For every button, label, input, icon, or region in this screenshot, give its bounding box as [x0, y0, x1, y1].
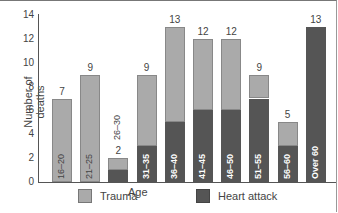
- bar-26-30: 226–30: [108, 0, 128, 213]
- bar-total-label: 9: [244, 62, 274, 73]
- legend-item-trauma: Trauma: [78, 189, 138, 203]
- category-label: 51–55: [253, 154, 263, 179]
- category-label: 21–25: [84, 154, 94, 179]
- y-tick-label: 4: [20, 128, 34, 139]
- bar-total-label: 5: [273, 109, 303, 120]
- category-label: 16–20: [56, 154, 66, 179]
- y-tick-label: 10: [20, 57, 34, 68]
- y-tick-label: 6: [20, 104, 34, 115]
- bar-segment-trauma: [137, 75, 157, 147]
- category-label: Over 60: [310, 146, 320, 179]
- bar-21-25: 921–25: [80, 0, 100, 213]
- bar-segment-trauma: [108, 158, 128, 170]
- y-axis-line: [38, 14, 39, 183]
- bar-total-label: 7: [47, 86, 77, 97]
- y-tick-label: 8: [20, 81, 34, 92]
- bar-total-label: 12: [188, 26, 218, 37]
- bar-51-55: 951–55: [249, 0, 269, 213]
- y-tick-label: 14: [20, 9, 34, 20]
- category-label: 31–35: [141, 154, 151, 179]
- stacked-bar-chart: Number of deaths 02468101214 716–20921–2…: [0, 0, 338, 213]
- bar-total-label: 9: [75, 62, 105, 73]
- bar-total-label: 13: [301, 14, 331, 25]
- bar-segment-trauma: [221, 39, 241, 111]
- legend-label-trauma: Trauma: [100, 190, 138, 202]
- category-label: 56–60: [282, 154, 292, 179]
- bar-segment-trauma: [249, 75, 269, 99]
- bar-total-label: 9: [132, 62, 162, 73]
- bar-36-40: 1336–40: [165, 0, 185, 213]
- y-tick-label: 2: [20, 152, 34, 163]
- y-tick-label: 0: [20, 176, 34, 187]
- bar-31-35: 931–35: [137, 0, 157, 213]
- legend-label-heart-attack: Heart attack: [218, 190, 277, 202]
- category-label: 36–40: [169, 154, 179, 179]
- bar-over-60: 13Over 60: [306, 0, 326, 213]
- bar-segment-trauma: [193, 39, 213, 111]
- bar-segment-heart-attack: [108, 170, 128, 182]
- bar-segment-trauma: [278, 122, 298, 146]
- legend-swatch-heart-attack: [196, 189, 210, 203]
- bar-41-45: 1241–45: [193, 0, 213, 213]
- category-label: 46–50: [225, 154, 235, 179]
- bar-total-label: 2: [103, 145, 133, 156]
- category-label: 41–45: [197, 154, 207, 179]
- bar-56-60: 556–60: [278, 0, 298, 213]
- bar-segment-trauma: [165, 27, 185, 122]
- legend-swatch-trauma: [78, 189, 92, 203]
- legend-item-heart-attack: Heart attack: [196, 189, 277, 203]
- y-tick-label: 12: [20, 33, 34, 44]
- bar-total-label: 12: [216, 26, 246, 37]
- category-label: 26–30: [112, 115, 122, 140]
- bar-16-20: 716–20: [52, 0, 72, 213]
- bar-46-50: 1246–50: [221, 0, 241, 213]
- bar-total-label: 13: [160, 14, 190, 25]
